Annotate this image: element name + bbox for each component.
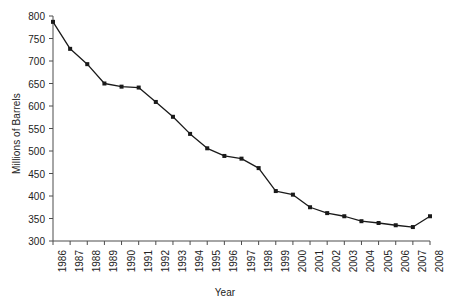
x-axis-tick-label: 1997 [246, 250, 257, 304]
x-axis-tick-label: 1989 [108, 250, 119, 304]
x-axis-tick-label: 1988 [91, 250, 102, 304]
data-point-marker [428, 214, 432, 218]
x-axis-tick-label: 1993 [177, 250, 188, 304]
x-axis-tick-label: 1998 [263, 250, 274, 304]
y-axis-tick-label: 500 [0, 146, 45, 157]
data-point-marker [411, 225, 415, 229]
data-point-marker [102, 82, 106, 86]
x-axis-tick-label: 1995 [211, 250, 222, 304]
data-point-marker [257, 166, 261, 170]
data-point-marker [85, 62, 89, 66]
x-axis-tick-label: 2003 [348, 250, 359, 304]
data-point-marker [291, 193, 295, 197]
x-axis-tick-label: 2001 [314, 250, 325, 304]
y-axis-tick-label: 550 [0, 123, 45, 134]
y-axis-tick-label: 400 [0, 191, 45, 202]
x-axis-tick-label: 1990 [126, 250, 137, 304]
y-axis-tick-label: 600 [0, 101, 45, 112]
x-axis-tick-label: 1986 [57, 250, 68, 304]
y-axis-tick-label: 800 [0, 11, 45, 22]
data-point-marker [308, 205, 312, 209]
x-axis-tick-label: 1999 [280, 250, 291, 304]
data-point-marker [205, 146, 209, 150]
data-point-marker [377, 221, 381, 225]
x-axis-tick-label: 2005 [383, 250, 394, 304]
data-point-marker [154, 100, 158, 104]
x-axis-tick-label: 2000 [297, 250, 308, 304]
y-axis-tick-label: 750 [0, 33, 45, 44]
x-axis-tick-label: 2004 [365, 250, 376, 304]
y-axis-tick-label: 350 [0, 213, 45, 224]
data-point-marker [359, 219, 363, 223]
data-point-marker [68, 47, 72, 51]
x-axis-tick-label: 2007 [417, 250, 428, 304]
y-axis-tick-label: 450 [0, 168, 45, 179]
data-series-line [53, 22, 430, 227]
y-axis-tick-label: 650 [0, 78, 45, 89]
x-axis-tick-label: 1992 [160, 250, 171, 304]
data-point-marker [222, 154, 226, 158]
data-point-marker [137, 86, 141, 90]
x-axis-tick-label: 2002 [331, 250, 342, 304]
data-point-marker [51, 20, 55, 24]
data-point-marker [188, 132, 192, 136]
x-axis-tick-label: 2008 [434, 250, 445, 304]
data-point-marker [240, 157, 244, 161]
y-axis-tick-label: 300 [0, 236, 45, 247]
data-point-marker [274, 189, 278, 193]
data-point-marker [394, 223, 398, 227]
x-axis-tick-label: 1987 [74, 250, 85, 304]
data-point-marker [342, 214, 346, 218]
x-axis-tick-label: 1991 [143, 250, 154, 304]
x-axis-tick-label: 2006 [400, 250, 411, 304]
data-point-marker [325, 211, 329, 215]
data-point-marker [171, 115, 175, 119]
data-point-marker [120, 85, 124, 89]
x-axis-tick-label: 1994 [194, 250, 205, 304]
y-axis-tick-label: 700 [0, 56, 45, 67]
x-axis-tick-label: 1996 [228, 250, 239, 304]
line-chart: Millions of Barrels Year 300350400450500… [0, 0, 450, 304]
